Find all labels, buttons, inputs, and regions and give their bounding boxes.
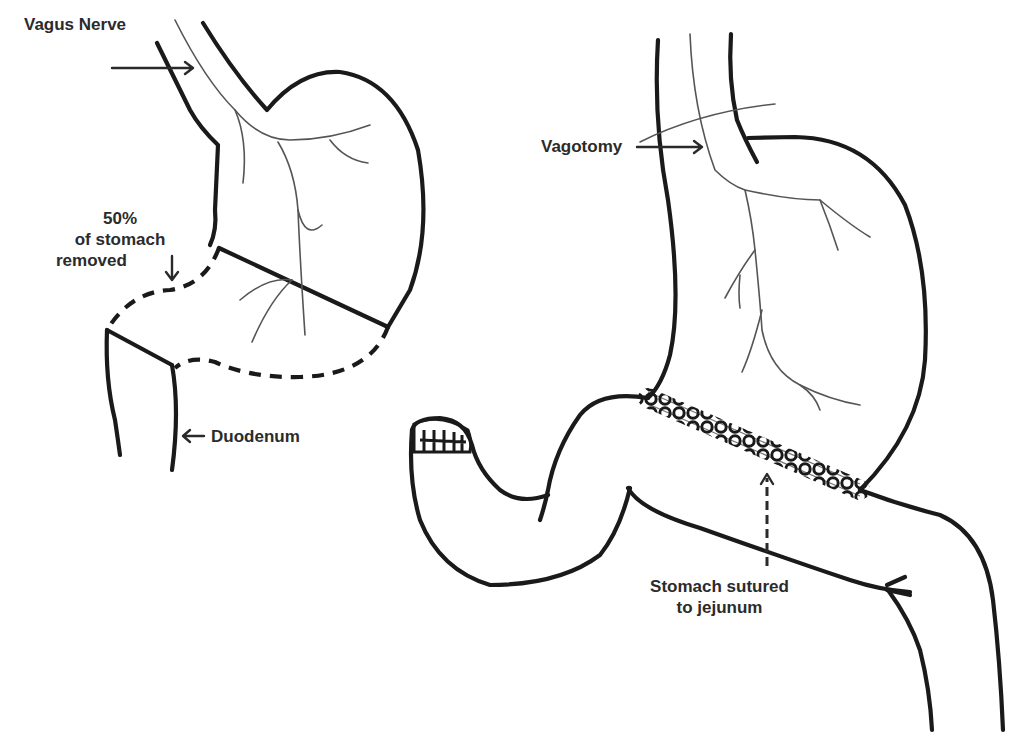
vagotomy-label: Vagotomy [541,136,622,157]
stomach-sutured-label: Stomach sutured to jejunum [627,576,812,618]
vagotomy-arrow [637,141,702,153]
stomach-removed-line3: removed [56,250,170,271]
vagus-nerve-label: Vagus Nerve [24,14,126,35]
diagram-drawing [0,0,1030,741]
right-stomach [411,34,1003,730]
duodenum-label: Duodenum [211,426,300,447]
stomach-removed-label: 50% of stomach removed [70,208,170,271]
vagus-nerve-arrow [112,62,193,74]
stomach-removed-line2: of stomach [40,229,200,250]
stomach-sutured-line2: to jejunum [627,597,812,618]
stomach-removed-line1: 50% [70,208,170,229]
diagram-canvas: Vagus Nerve 50% of stomach removed Duode… [0,0,1030,741]
stomach-sutured-line1: Stomach sutured [627,576,812,597]
duodenum-arrow [183,430,204,442]
